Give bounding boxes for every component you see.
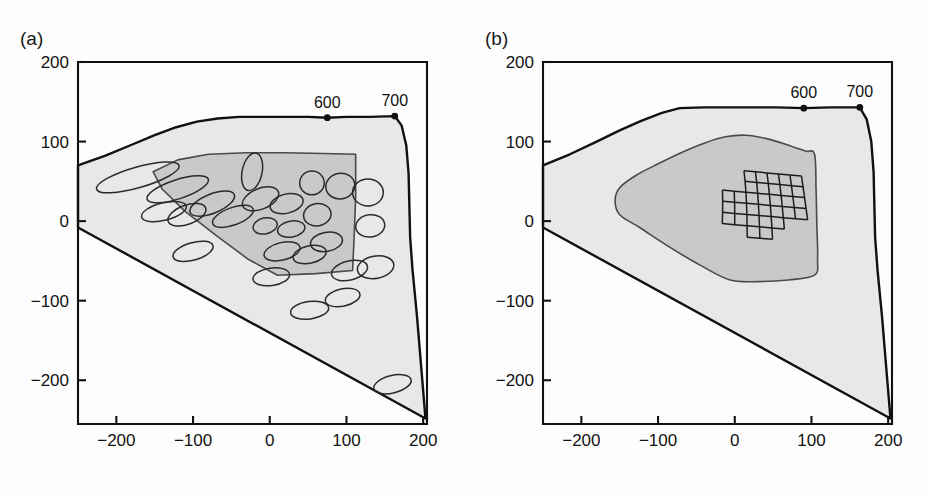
x-tick-label: 0	[730, 431, 739, 450]
panel-a-plot: −200−10001002002001000−100−200600700	[0, 0, 465, 496]
panel-a: (a) −200−10001002002001000−100−200600700	[0, 0, 465, 496]
x-tick-label: −200	[97, 431, 135, 450]
y-tick-label: 200	[41, 53, 69, 72]
y-tick-label: −100	[496, 292, 534, 311]
wavelength-marker-dot	[391, 113, 398, 120]
wavelength-marker-label: 700	[381, 92, 408, 109]
panel-b-tag: (b)	[485, 28, 508, 50]
y-tick-label: −100	[31, 292, 69, 311]
figure-container: (a) −200−10001002002001000−100−200600700…	[0, 0, 930, 496]
wavelength-marker-label: 700	[846, 83, 873, 100]
x-tick-label: 100	[332, 431, 360, 450]
x-tick-label: −100	[174, 431, 212, 450]
wavelength-marker-dot	[856, 104, 863, 111]
wavelength-marker-label: 600	[314, 94, 341, 111]
panel-a-tag: (a)	[20, 28, 43, 50]
wavelength-marker-dot	[324, 114, 331, 121]
x-tick-label: 100	[797, 431, 825, 450]
panel-b-plot: −200−10001002002001000−100−200600700	[465, 0, 930, 496]
x-tick-label: 200	[409, 431, 437, 450]
y-tick-label: 200	[506, 53, 534, 72]
x-tick-label: 200	[874, 431, 902, 450]
mesh-gridline	[734, 191, 735, 225]
panel-b: (b) −200−10001002002001000−100−200600700	[465, 0, 930, 496]
y-tick-label: −200	[496, 371, 534, 390]
y-tick-label: 0	[525, 212, 534, 231]
y-tick-label: −200	[31, 371, 69, 390]
y-tick-label: 100	[41, 133, 69, 152]
x-tick-label: −200	[562, 431, 600, 450]
wavelength-marker-label: 600	[790, 84, 817, 101]
y-tick-label: 0	[60, 212, 69, 231]
wavelength-marker-dot	[800, 105, 807, 112]
y-tick-label: 100	[506, 133, 534, 152]
x-tick-label: −100	[639, 431, 677, 450]
x-tick-label: 0	[265, 431, 274, 450]
